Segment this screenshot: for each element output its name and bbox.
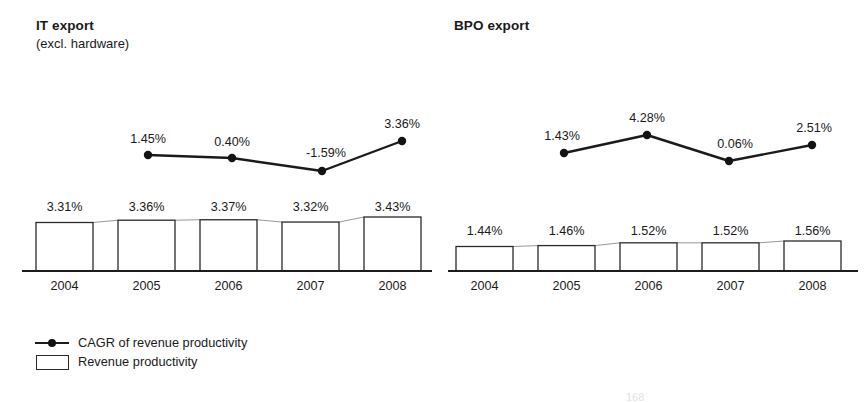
x-tick-label-2005: 2005 [552,279,580,293]
cagr-point-2007 [725,157,733,165]
cagr-value-label-2005: 1.43% [544,129,580,143]
x-tick-label-2006: 2006 [214,279,242,293]
plot-area-it-export: 3.31%3.36%3.37%3.32%3.43%200420052006200… [0,0,440,320]
cagr-point-2007 [318,167,326,175]
legend-line-marker-icon [34,334,72,352]
x-tick-label-2007: 2007 [716,279,744,293]
bar-2007 [702,243,759,271]
cagr-trend-line [564,135,812,161]
legend-item-revenue-productivity: Revenue productivity [34,353,364,372]
x-tick-label-2004: 2004 [50,279,78,293]
x-tick-label-2007: 2007 [296,279,324,293]
cagr-value-label-2007: -1.59% [306,146,346,160]
bar-value-label-2006: 3.37% [211,200,247,214]
bar-value-label-2008: 1.56% [795,224,831,238]
bar-2004 [456,247,513,272]
legend-item-cagr-label: CAGR of revenue productivity [78,335,247,350]
bar-2006 [620,243,677,271]
cagr-point-2005 [560,149,568,157]
scan-artifact-page-number: 168 [626,392,644,401]
cagr-point-2006 [228,154,236,162]
bar-value-label-2007: 3.32% [293,200,329,214]
x-tick-label-2008: 2008 [798,279,826,293]
cagr-point-2005 [144,151,152,159]
legend-item-cagr: CAGR of revenue productivity [34,334,364,353]
cagr-point-2006 [643,131,651,139]
cagr-point-2008 [808,141,816,149]
bar-2007 [282,222,339,271]
x-tick-label-2008: 2008 [378,279,406,293]
bar-2008 [784,241,841,271]
cagr-trend-line [148,141,402,171]
bar-value-label-2004: 1.44% [467,224,503,238]
bar-value-label-2005: 1.46% [549,224,585,238]
cagr-value-label-2007: 0.06% [717,137,753,151]
bar-value-label-2007: 1.52% [713,224,749,238]
plot-area-bpo-export: 1.44%1.46%1.52%1.52%1.56%200420052006200… [430,0,865,320]
cagr-point-2008 [398,137,406,145]
x-tick-label-2006: 2006 [634,279,662,293]
bar-2004 [36,223,93,272]
x-tick-label-2004: 2004 [470,279,498,293]
bar-value-label-2006: 1.52% [631,224,667,238]
cagr-value-label-2006: 4.28% [629,111,665,125]
bar-value-label-2004: 3.31% [47,200,83,214]
chart-panel-it-export: IT export (excl. hardware) 3.31%3.36%3.3… [0,0,440,320]
figure-canvas: IT export (excl. hardware) 3.31%3.36%3.3… [0,0,865,402]
x-tick-label-2005: 2005 [132,279,160,293]
bar-2005 [538,246,595,271]
chart-legend: CAGR of revenue productivity Revenue pro… [34,334,364,372]
legend-open-rectangle-icon [34,353,72,371]
bar-2006 [200,220,257,271]
cagr-value-label-2006: 0.40% [214,135,250,149]
chart-panel-bpo-export: BPO export 1.44%1.46%1.52%1.52%1.56%2004… [430,0,865,320]
bar-2005 [118,220,175,271]
cagr-value-label-2005: 1.45% [130,132,166,146]
cagr-value-label-2008: 3.36% [384,117,420,131]
legend-item-revenue-productivity-label: Revenue productivity [78,354,198,369]
cagr-value-label-2008: 2.51% [796,121,832,135]
bar-value-label-2008: 3.43% [375,200,411,214]
bar-2008 [364,217,421,271]
bar-value-label-2005: 3.36% [129,200,165,214]
